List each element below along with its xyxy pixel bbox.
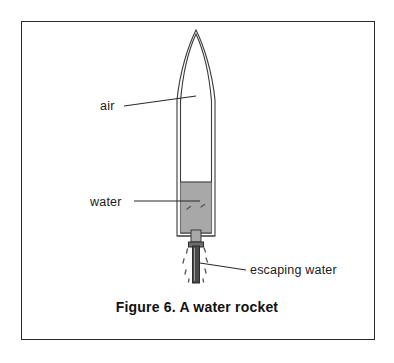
droplet-7 [189,279,190,282]
droplet-2 [204,248,206,252]
air-leader-line [124,96,196,106]
droplet-8 [203,279,204,282]
droplet-4 [206,258,208,262]
nozzle-tube [193,246,200,283]
rocket-nozzle [189,230,204,283]
escaping-water-leader-line [200,263,246,270]
droplet-3 [183,259,184,263]
escaping-water-label: escaping water [250,263,337,277]
droplet-6 [205,269,206,273]
water-fill [181,182,212,233]
water-label: water [89,195,122,209]
droplet-5 [185,270,186,274]
figure-caption: Figure 6. A water rocket [116,299,279,315]
air-label: air [100,99,115,113]
figure-page: air water escaping water Figure 6. A wat… [0,0,394,363]
water-rocket-diagram: air water escaping water Figure 6. A wat… [0,0,394,363]
droplet-1 [187,249,188,253]
rocket-bottle [177,30,215,236]
nozzle-neck [191,230,201,242]
